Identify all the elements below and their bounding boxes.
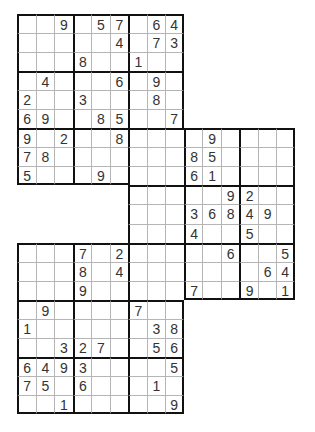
sudoku-cell[interactable] bbox=[184, 128, 203, 147]
sudoku-cell[interactable] bbox=[54, 109, 73, 128]
sudoku-cell[interactable] bbox=[128, 224, 147, 243]
sudoku-cell[interactable] bbox=[276, 185, 295, 204]
sudoku-cell[interactable] bbox=[128, 357, 147, 376]
sudoku-cell[interactable] bbox=[202, 262, 221, 281]
sudoku-cell[interactable] bbox=[73, 128, 92, 147]
sudoku-cell[interactable] bbox=[91, 300, 110, 319]
sudoku-cell[interactable] bbox=[147, 204, 166, 223]
sudoku-cell[interactable] bbox=[128, 376, 147, 395]
sudoku-cell[interactable]: 9 bbox=[258, 204, 277, 223]
sudoku-cell[interactable] bbox=[17, 243, 36, 262]
sudoku-cell[interactable]: 9 bbox=[36, 300, 55, 319]
sudoku-cell[interactable] bbox=[73, 33, 92, 52]
sudoku-cell[interactable]: 8 bbox=[184, 147, 203, 166]
sudoku-cell[interactable]: 4 bbox=[184, 224, 203, 243]
sudoku-cell[interactable] bbox=[36, 338, 55, 357]
sudoku-cell[interactable]: 7 bbox=[73, 243, 92, 262]
sudoku-cell[interactable]: 1 bbox=[54, 395, 73, 414]
sudoku-cell[interactable]: 7 bbox=[165, 109, 184, 128]
sudoku-cell[interactable] bbox=[147, 128, 166, 147]
sudoku-cell[interactable] bbox=[128, 71, 147, 90]
sudoku-cell[interactable]: 1 bbox=[276, 281, 295, 300]
sudoku-cell[interactable]: 8 bbox=[91, 109, 110, 128]
sudoku-cell[interactable] bbox=[165, 243, 184, 262]
sudoku-cell[interactable] bbox=[147, 281, 166, 300]
sudoku-cell[interactable] bbox=[110, 395, 129, 414]
sudoku-cell[interactable] bbox=[165, 128, 184, 147]
sudoku-cell[interactable] bbox=[276, 128, 295, 147]
sudoku-cell[interactable] bbox=[165, 147, 184, 166]
sudoku-cell[interactable] bbox=[128, 319, 147, 338]
sudoku-cell[interactable]: 8 bbox=[165, 319, 184, 338]
sudoku-cell[interactable] bbox=[202, 224, 221, 243]
sudoku-cell[interactable] bbox=[54, 33, 73, 52]
sudoku-cell[interactable] bbox=[258, 224, 277, 243]
sudoku-cell[interactable]: 5 bbox=[202, 147, 221, 166]
sudoku-cell[interactable]: 5 bbox=[36, 376, 55, 395]
sudoku-cell[interactable]: 9 bbox=[202, 128, 221, 147]
sudoku-cell[interactable]: 3 bbox=[73, 90, 92, 109]
sudoku-cell[interactable]: 2 bbox=[17, 90, 36, 109]
sudoku-cell[interactable] bbox=[17, 71, 36, 90]
sudoku-cell[interactable] bbox=[17, 338, 36, 357]
sudoku-cell[interactable]: 6 bbox=[221, 243, 240, 262]
sudoku-cell[interactable] bbox=[239, 128, 258, 147]
sudoku-cell[interactable] bbox=[54, 262, 73, 281]
sudoku-cell[interactable]: 6 bbox=[17, 109, 36, 128]
sudoku-cell[interactable]: 7 bbox=[110, 14, 129, 33]
sudoku-cell[interactable] bbox=[17, 14, 36, 33]
sudoku-cell[interactable] bbox=[91, 147, 110, 166]
sudoku-cell[interactable]: 6 bbox=[184, 166, 203, 185]
sudoku-cell[interactable] bbox=[258, 185, 277, 204]
sudoku-cell[interactable]: 4 bbox=[239, 204, 258, 223]
sudoku-cell[interactable] bbox=[258, 281, 277, 300]
sudoku-cell[interactable] bbox=[17, 33, 36, 52]
sudoku-cell[interactable] bbox=[147, 166, 166, 185]
sudoku-cell[interactable]: 9 bbox=[91, 166, 110, 185]
sudoku-cell[interactable] bbox=[36, 262, 55, 281]
sudoku-cell[interactable]: 2 bbox=[239, 185, 258, 204]
sudoku-cell[interactable] bbox=[110, 338, 129, 357]
sudoku-cell[interactable]: 2 bbox=[110, 243, 129, 262]
sudoku-cell[interactable] bbox=[36, 128, 55, 147]
sudoku-cell[interactable]: 3 bbox=[54, 338, 73, 357]
sudoku-cell[interactable] bbox=[147, 300, 166, 319]
sudoku-cell[interactable] bbox=[54, 319, 73, 338]
sudoku-cell[interactable] bbox=[147, 243, 166, 262]
sudoku-cell[interactable] bbox=[110, 376, 129, 395]
sudoku-cell[interactable] bbox=[221, 166, 240, 185]
sudoku-cell[interactable]: 9 bbox=[17, 128, 36, 147]
sudoku-cell[interactable] bbox=[221, 262, 240, 281]
sudoku-cell[interactable] bbox=[73, 71, 92, 90]
sudoku-cell[interactable] bbox=[239, 147, 258, 166]
sudoku-cell[interactable] bbox=[73, 109, 92, 128]
sudoku-cell[interactable] bbox=[91, 128, 110, 147]
sudoku-cell[interactable]: 9 bbox=[36, 109, 55, 128]
sudoku-cell[interactable]: 4 bbox=[165, 14, 184, 33]
sudoku-cell[interactable] bbox=[128, 185, 147, 204]
sudoku-cell[interactable]: 6 bbox=[17, 357, 36, 376]
sudoku-cell[interactable] bbox=[110, 281, 129, 300]
sudoku-cell[interactable] bbox=[54, 243, 73, 262]
sudoku-cell[interactable]: 4 bbox=[110, 262, 129, 281]
sudoku-cell[interactable] bbox=[54, 52, 73, 71]
sudoku-cell[interactable] bbox=[91, 376, 110, 395]
sudoku-cell[interactable] bbox=[221, 128, 240, 147]
sudoku-cell[interactable] bbox=[258, 243, 277, 262]
sudoku-cell[interactable]: 5 bbox=[239, 224, 258, 243]
sudoku-cell[interactable] bbox=[165, 52, 184, 71]
sudoku-cell[interactable] bbox=[17, 52, 36, 71]
sudoku-cell[interactable] bbox=[128, 128, 147, 147]
sudoku-cell[interactable] bbox=[91, 395, 110, 414]
sudoku-cell[interactable]: 6 bbox=[73, 376, 92, 395]
sudoku-cell[interactable] bbox=[165, 376, 184, 395]
sudoku-cell[interactable] bbox=[91, 262, 110, 281]
sudoku-cell[interactable] bbox=[258, 128, 277, 147]
sudoku-cell[interactable] bbox=[73, 14, 92, 33]
sudoku-cell[interactable]: 2 bbox=[54, 128, 73, 147]
sudoku-cell[interactable]: 6 bbox=[165, 338, 184, 357]
sudoku-cell[interactable]: 5 bbox=[276, 243, 295, 262]
sudoku-cell[interactable]: 9 bbox=[54, 357, 73, 376]
sudoku-cell[interactable] bbox=[165, 185, 184, 204]
sudoku-cell[interactable] bbox=[202, 243, 221, 262]
